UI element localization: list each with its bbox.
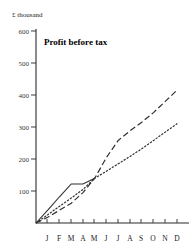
x-tick-label-jun: J <box>105 234 108 243</box>
x-tick-label-feb: F <box>57 234 61 243</box>
chart-title: Profit before tax <box>44 37 108 47</box>
y-axis-unit-label: £ thousand <box>12 11 43 19</box>
series-line-upper-projection <box>36 90 177 223</box>
y-tick-label: 500 <box>19 60 30 68</box>
y-tick-label: 300 <box>19 124 30 132</box>
x-tick-label-jan: J <box>46 234 49 243</box>
y-tick-label: 600 <box>19 28 30 36</box>
y-axis-ticks <box>31 31 36 191</box>
y-tick-label: 100 <box>19 188 30 196</box>
x-tick-label-mar: M <box>68 234 75 243</box>
x-tick-label-jul: J <box>117 234 120 243</box>
series-line-lower-projection <box>36 124 177 223</box>
x-tick-label-aug: A <box>127 234 133 243</box>
x-tick-label-sep: S <box>139 234 143 243</box>
x-axis-ticks <box>47 219 177 223</box>
chart-page: £ thousand Profit before tax 600 500 400… <box>0 0 195 250</box>
x-tick-label-dec: D <box>174 234 180 243</box>
x-tick-label-oct: O <box>150 234 156 243</box>
y-tick-label: 400 <box>19 92 30 100</box>
y-tick-label: 200 <box>19 156 30 164</box>
x-tick-label-may: M <box>91 234 98 243</box>
y-axis-tick-labels: 600 500 400 300 200 100 <box>19 28 30 196</box>
x-tick-label-apr: A <box>80 234 86 243</box>
x-axis-tick-labels: J F M A M J J A S O N D <box>46 234 181 243</box>
x-tick-label-nov: N <box>162 234 168 243</box>
profit-before-tax-chart: £ thousand Profit before tax 600 500 400… <box>0 0 195 250</box>
